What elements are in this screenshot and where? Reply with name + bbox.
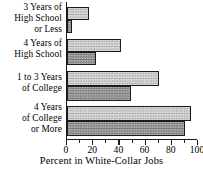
category-label-line: of College xyxy=(0,113,62,124)
bar-group-3-dark xyxy=(67,86,131,101)
value-axis-tick-minor xyxy=(158,140,159,143)
category-axis-labels: 3 Years of High School or Less 4 Years o… xyxy=(0,0,64,140)
category-label-4-years-college-or-more: 4 Years of College or More xyxy=(0,102,62,136)
value-axis-tick-label: 80 xyxy=(166,144,176,155)
bar-group-4-light xyxy=(67,106,191,121)
category-label-line: of College xyxy=(0,83,62,94)
bar-group-1-light xyxy=(67,7,89,20)
category-label-line: 3 Years of xyxy=(0,2,62,13)
bar-chart: 3 Years of High School or Less 4 Years o… xyxy=(0,0,203,172)
value-axis-tick-minor xyxy=(105,140,106,143)
value-axis-tick-label: 20 xyxy=(87,144,97,155)
bar-group-2-dark xyxy=(67,52,96,65)
category-label-line: High School xyxy=(0,13,62,24)
category-label-line: or More xyxy=(0,124,62,135)
category-label-4-years-high-school: 4 Years of High School xyxy=(0,38,62,60)
value-axis-tick-label: 40 xyxy=(114,144,124,155)
value-axis-tick-minor xyxy=(184,140,185,143)
plot-area xyxy=(66,2,197,140)
bar-group-2-light xyxy=(67,39,121,52)
bar-group-3-light xyxy=(67,71,159,86)
category-label-line: High School xyxy=(0,49,62,60)
bar-group-4-dark xyxy=(67,121,185,136)
category-label-line: 4 Years of xyxy=(0,38,62,49)
value-axis-tick-minor xyxy=(79,140,80,143)
bar-group-1-dark xyxy=(67,20,72,33)
value-axis-tick-label: 100 xyxy=(190,144,203,155)
category-label-1-to-3-years-college: 1 to 3 Years of College xyxy=(0,72,62,94)
x-axis-title: Percent in White-Collar Jobs xyxy=(0,155,203,166)
category-label-3-years-high-school-or-less: 3 Years of High School or Less xyxy=(0,2,62,36)
value-axis-tick-label: 0 xyxy=(64,144,69,155)
category-label-line: 4 Years xyxy=(0,102,62,113)
value-axis-tick-minor xyxy=(132,140,133,143)
category-label-line: 1 to 3 Years xyxy=(0,72,62,83)
value-axis-tick-label: 60 xyxy=(140,144,150,155)
category-label-line: or Less xyxy=(0,24,62,35)
